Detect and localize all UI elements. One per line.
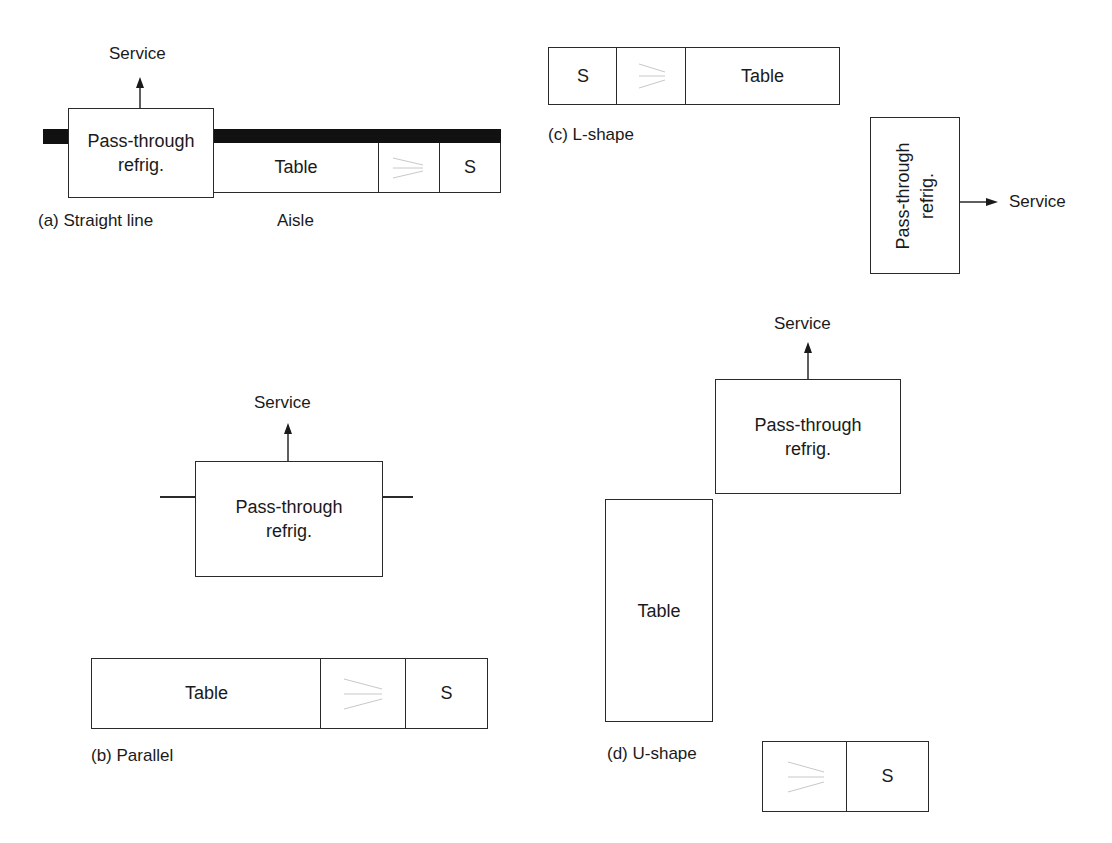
pass-through-refrig-d: Pass-through refrig. — [715, 379, 901, 494]
sink-cell: S — [846, 742, 928, 811]
caption-d: (d) U-shape — [607, 744, 697, 764]
refrig-label-line1: Pass-through — [754, 413, 861, 437]
service-arrow-d — [0, 0, 1112, 843]
refrig-label-line2: refrig. — [754, 437, 861, 461]
counter-d: S — [762, 741, 929, 812]
table-label: Table — [637, 599, 680, 623]
sink-label: S — [881, 766, 893, 787]
dish-rack-icon — [780, 752, 830, 802]
dish-rack-cell — [763, 742, 847, 811]
service-label-d: Service — [774, 314, 831, 334]
table-d: Table — [605, 499, 713, 722]
